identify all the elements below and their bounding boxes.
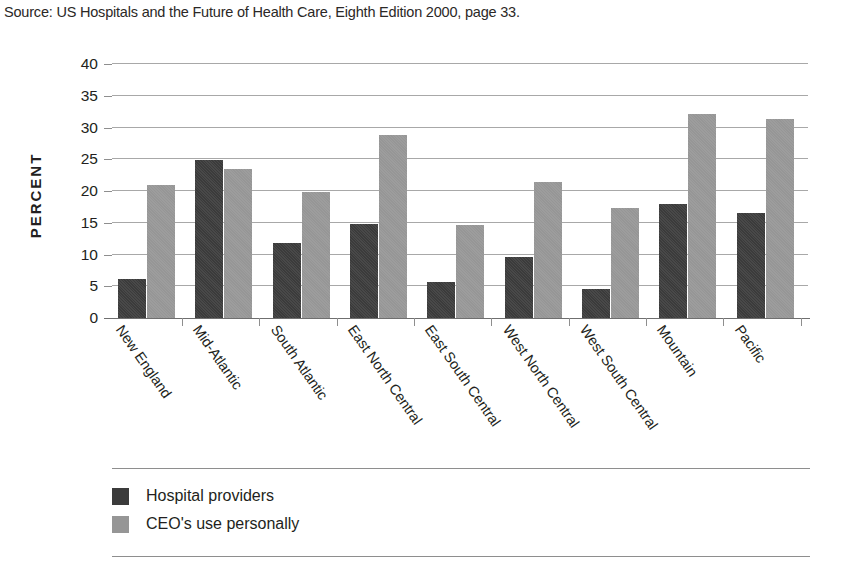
bar — [737, 213, 765, 318]
y-axis-tick — [104, 255, 112, 256]
bar-group — [582, 64, 639, 318]
plot-area — [112, 64, 808, 318]
bar — [427, 282, 455, 318]
bar — [505, 257, 533, 318]
bar — [273, 243, 301, 318]
chart-legend: Hospital providersCEO's use personally — [112, 482, 299, 538]
x-axis-tick-label: West South Central — [577, 322, 661, 432]
bar — [350, 224, 378, 318]
bar — [302, 192, 330, 318]
y-axis-tick-labels: 0510152025303540 — [68, 64, 98, 318]
legend-divider-top — [112, 468, 810, 469]
x-axis-tick-label: East North Central — [345, 322, 425, 427]
x-axis-tick-label: Mountain — [654, 322, 701, 379]
y-axis-title: PERCENT — [24, 120, 48, 270]
bar — [118, 279, 146, 318]
bar-group — [427, 64, 484, 318]
y-axis-tick — [104, 223, 112, 224]
x-axis-tick — [182, 318, 183, 326]
y-axis-tick — [104, 128, 112, 129]
bar-group — [350, 64, 407, 318]
y-axis-tick-label: 15 — [68, 214, 98, 232]
y-axis-tick — [104, 159, 112, 160]
x-axis-line — [104, 318, 810, 319]
bar — [611, 208, 639, 318]
x-axis-tick — [723, 318, 724, 326]
legend-swatch — [112, 516, 129, 533]
legend-swatch — [112, 488, 129, 505]
bar — [147, 185, 175, 318]
x-axis-tick-label: East South Central — [422, 322, 504, 429]
legend-divider-bottom — [112, 556, 810, 557]
bar — [195, 160, 223, 318]
bar — [224, 169, 252, 318]
x-axis-tick — [569, 318, 570, 326]
y-axis-tick-label: 10 — [68, 246, 98, 264]
bar-chart: PERCENT 0510152025303540 New EnglandMid-… — [0, 0, 851, 583]
x-axis-tick-label: Pacific — [732, 322, 769, 366]
y-axis-tick-label: 20 — [68, 182, 98, 200]
y-axis-tick-label: 25 — [68, 150, 98, 168]
y-axis-tick — [104, 96, 112, 97]
y-axis-tick — [104, 286, 112, 287]
legend-label: Hospital providers — [146, 487, 274, 505]
x-axis-tick-label: South Atlantic — [268, 322, 331, 403]
bar-group — [505, 64, 562, 318]
y-axis-tick — [104, 64, 112, 65]
x-axis-tick — [801, 318, 802, 326]
bar-group — [659, 64, 716, 318]
legend-label: CEO's use personally — [146, 515, 299, 533]
x-axis-tick — [646, 318, 647, 326]
bar — [582, 289, 610, 318]
x-axis-tick-label: West North Central — [500, 322, 583, 430]
legend-entry: CEO's use personally — [112, 510, 299, 538]
y-axis-tick-label: 0 — [68, 309, 98, 327]
y-axis-tick-label: 30 — [68, 119, 98, 137]
x-axis-tick — [337, 318, 338, 326]
bar — [688, 114, 716, 318]
bar-group — [195, 64, 252, 318]
bar — [456, 225, 484, 318]
x-axis-tick-label: New England — [113, 322, 175, 401]
bar — [379, 135, 407, 318]
y-axis-tick-label: 5 — [68, 277, 98, 295]
legend-entry: Hospital providers — [112, 482, 299, 510]
x-axis-tick — [259, 318, 260, 326]
bar — [659, 204, 687, 318]
y-axis-tick — [104, 191, 112, 192]
bar-group — [273, 64, 330, 318]
x-axis-tick — [491, 318, 492, 326]
x-axis-tick — [414, 318, 415, 326]
bar — [534, 182, 562, 318]
x-axis-tick-label: Mid-Atlantic — [190, 322, 246, 392]
y-axis-tick-label: 40 — [68, 55, 98, 73]
bar — [766, 119, 794, 318]
bar-group — [118, 64, 175, 318]
bar-group — [737, 64, 794, 318]
y-axis-tick-label: 35 — [68, 87, 98, 105]
